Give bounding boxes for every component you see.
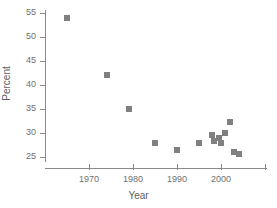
y-tick-mark bbox=[40, 61, 46, 62]
y-tick-mark bbox=[40, 85, 46, 86]
data-point bbox=[104, 72, 110, 78]
x-tick-label: 1990 bbox=[157, 174, 197, 184]
data-point bbox=[227, 119, 233, 125]
y-tick-label: 25 bbox=[14, 152, 36, 161]
y-tick-label: 55 bbox=[14, 8, 36, 17]
y-axis-title: Percent bbox=[1, 54, 12, 114]
x-tick-mark bbox=[89, 164, 90, 170]
data-point bbox=[222, 130, 228, 136]
data-point bbox=[174, 147, 180, 153]
data-point bbox=[196, 140, 202, 146]
data-point bbox=[236, 151, 242, 157]
x-tick-label: 1970 bbox=[69, 174, 109, 184]
data-point bbox=[152, 140, 158, 146]
data-point bbox=[218, 140, 224, 146]
y-tick-mark bbox=[40, 157, 46, 158]
x-axis-title: Year bbox=[0, 190, 277, 201]
x-tick-mark bbox=[265, 164, 266, 170]
y-tick-label: 40 bbox=[14, 80, 36, 89]
y-tick-mark bbox=[40, 37, 46, 38]
x-tick-mark bbox=[221, 164, 222, 170]
y-tick-label: 45 bbox=[14, 56, 36, 65]
y-tick-mark bbox=[40, 13, 46, 14]
x-tick-mark bbox=[133, 164, 134, 170]
x-tick-label: 1980 bbox=[113, 174, 153, 184]
plot-area: 25303540455055 1970198019902000 Percent … bbox=[0, 0, 277, 208]
y-tick-label: 30 bbox=[14, 128, 36, 137]
y-axis-line bbox=[45, 10, 46, 162]
data-point bbox=[64, 15, 70, 21]
scatter-chart: 25303540455055 1970198019902000 Percent … bbox=[0, 0, 277, 208]
y-tick-label: 35 bbox=[14, 104, 36, 113]
y-tick-label: 50 bbox=[14, 32, 36, 41]
data-point bbox=[126, 106, 132, 112]
y-tick-mark bbox=[40, 133, 46, 134]
x-tick-mark bbox=[177, 164, 178, 170]
x-tick-label: 2000 bbox=[201, 174, 241, 184]
y-tick-mark bbox=[40, 109, 46, 110]
x-axis-line bbox=[45, 168, 267, 169]
